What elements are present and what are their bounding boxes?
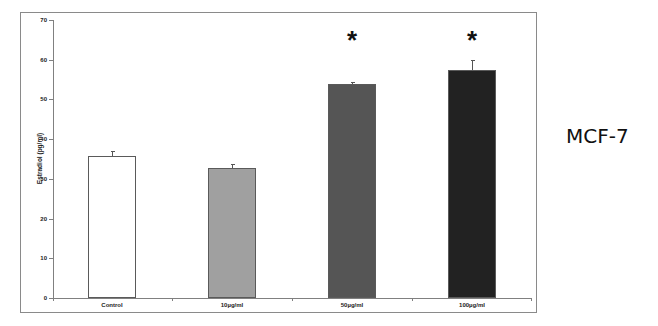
significance-star: *	[457, 30, 487, 50]
y-tick	[49, 258, 53, 259]
error-bar-cap	[351, 82, 355, 83]
y-tick	[49, 179, 53, 180]
y-axis	[53, 20, 54, 298]
significance-star: *	[337, 30, 367, 50]
y-tick-label: 50	[30, 96, 47, 102]
x-tick	[412, 298, 413, 301]
error-bar-cap	[111, 151, 115, 152]
y-tick-label: 40	[30, 136, 47, 142]
error-bar	[472, 60, 473, 70]
error-bar-cap	[471, 60, 475, 61]
x-tick-label: Control	[72, 302, 152, 308]
y-tick-label: 70	[30, 17, 47, 23]
y-tick-label: 60	[30, 57, 47, 63]
y-tick-label: 10	[30, 255, 47, 261]
x-tick-label: 50µg/ml	[312, 302, 392, 308]
y-tick-label: 30	[30, 176, 47, 182]
bar	[328, 84, 376, 298]
error-bar-cap	[231, 164, 235, 165]
bar	[448, 70, 496, 298]
cell-line-label: MCF-7	[566, 124, 629, 148]
y-tick	[49, 60, 53, 61]
x-tick	[531, 298, 532, 301]
y-tick	[49, 139, 53, 140]
x-tick	[172, 298, 173, 301]
y-tick	[49, 99, 53, 100]
x-tick-label: 10µg/ml	[192, 302, 272, 308]
x-tick-label: 100µg/ml	[432, 302, 512, 308]
y-axis-title: Estradiol (pg/ml)	[36, 119, 43, 199]
y-tick-label: 20	[30, 216, 47, 222]
y-tick	[49, 219, 53, 220]
bar	[88, 156, 136, 298]
y-tick	[49, 20, 53, 21]
y-tick-label: 0	[30, 295, 47, 301]
x-tick	[53, 298, 54, 301]
x-tick	[292, 298, 293, 301]
bar	[208, 168, 256, 298]
